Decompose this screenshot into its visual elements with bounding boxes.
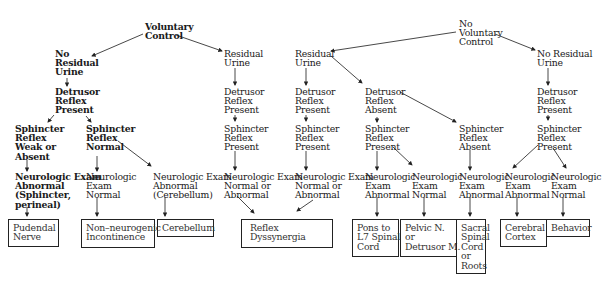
outcome-pudendal-nerve: Pudendal Nerve: [8, 219, 59, 247]
node-c6-sphincter-present: Sphincter Reflex Present: [537, 124, 581, 152]
node-c3-sphincter-present: Sphincter Reflex Present: [295, 124, 339, 152]
node-c3-neuro-normal-or-abnormal: Neurologic Exam Normal or Abnormal: [295, 172, 374, 200]
node-c6a-neuro-abnormal: Neurologic Exam Abnormal: [505, 172, 555, 200]
outcome-cerebellum: Cerebellum: [157, 219, 214, 237]
node-c1b-neuro-normal: Neurologic Exam Normal: [86, 172, 136, 200]
node-c2-sphincter-present: Sphincter Reflex Present: [224, 124, 268, 152]
node-c4-sphincter-present: Sphincter Reflex Present: [365, 124, 409, 152]
node-c2-residual-urine: Residual Urine: [224, 49, 263, 67]
node-c4b-neuro-normal: Neurologic Exam Normal: [412, 172, 462, 200]
node-c1-no-residual-urine: No Residual Urine: [55, 49, 99, 77]
node-c4a-neuro-abnormal: Neurologic Exam Abnormal: [365, 172, 415, 200]
outcome-pelvic-nerve-detrusor: Pelvic N. or Detrusor M.: [400, 219, 457, 257]
outcome-behavior: Behavior: [546, 219, 590, 237]
node-c6b-neuro-normal: Neurologic Exam Normal: [551, 172, 601, 200]
outcome-pons-spinal-cord: Pons to L7 Spinal Cord: [352, 219, 399, 257]
node-c1a-sphincter-weak: Sphincter Reflex Weak or Absent: [15, 124, 64, 161]
node-c1b-sphincter-normal: Sphincter Reflex Normal: [86, 124, 135, 152]
node-c5-sphincter-absent: Sphincter Reflex Absent: [459, 124, 503, 152]
outcome-cerebral-cortex: Cerebral Cortex: [500, 219, 547, 247]
node-no-voluntary-control: No Voluntary Control: [459, 19, 503, 47]
node-c5-neuro-abnormal: Neurologic Exam Abnormal: [459, 172, 509, 200]
node-c3-detrusor-present: Detrusor Reflex Present: [295, 87, 335, 115]
outcome-reflex-dyssynergia: Reflex Dyssynergia: [241, 219, 333, 248]
outcome-non-neurogenic-incontinence: Non–neurogenic Incontinence: [81, 219, 155, 248]
node-c4-detrusor-absent: Detrusor Reflex Absent: [365, 87, 405, 115]
node-c6-detrusor-present: Detrusor Reflex Present: [537, 87, 577, 115]
node-voluntary-control: Voluntary Control: [145, 22, 193, 40]
node-c1-detrusor-present: Detrusor Reflex Present: [55, 87, 100, 115]
node-c6-no-residual-urine: No Residual Urine: [537, 49, 592, 67]
outcome-sacral-spinal-cord: Sacral Spinal Cord or Roots: [456, 219, 486, 274]
node-c3-residual-urine: Residual Urine: [295, 49, 334, 67]
node-c1c-neuro-abnormal-cerebellum: Neurologic Exam Abnormal (Cerebellum): [153, 172, 232, 200]
node-c2-neuro-normal-or-abnormal: Neurologic Exam Normal or Abnormal: [224, 172, 303, 200]
node-c2-detrusor-present: Detrusor Reflex Present: [224, 87, 264, 115]
